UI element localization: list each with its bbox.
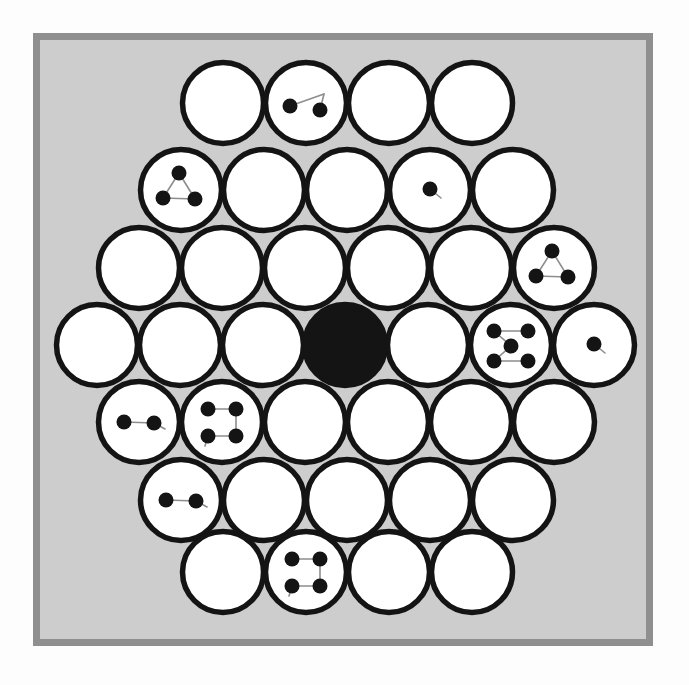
open-circle[interactable]: [266, 532, 347, 613]
board-circle-r2c5[interactable]: [473, 150, 554, 231]
open-circle[interactable]: [141, 150, 222, 231]
board-circle-r2c2[interactable]: [224, 150, 305, 231]
board-circle-r6c4[interactable]: [390, 460, 471, 541]
marker-dot: [117, 415, 132, 430]
marker-dot: [285, 579, 300, 594]
open-circle[interactable]: [349, 532, 430, 613]
board-circle-r6c2[interactable]: [224, 460, 305, 541]
board-circle-r4c4[interactable]: [305, 305, 386, 386]
marker-dot: [229, 429, 244, 444]
marker-dot: [156, 191, 171, 206]
board-circle-r3c2[interactable]: [182, 228, 263, 309]
board-circle-r3c5[interactable]: [431, 228, 512, 309]
open-circle[interactable]: [431, 228, 512, 309]
marker-dot: [283, 99, 298, 114]
marker-dot: [313, 579, 328, 594]
marker-dot: [159, 493, 174, 508]
board-circle-r5c3[interactable]: [265, 382, 346, 463]
board-circle-r1c2[interactable]: [266, 63, 347, 144]
board-circle-r2c4[interactable]: [390, 150, 471, 231]
open-circle[interactable]: [432, 532, 513, 613]
open-circle[interactable]: [265, 228, 346, 309]
marker-dot: [313, 103, 328, 118]
board-circle-r4c2[interactable]: [140, 305, 221, 386]
open-circle[interactable]: [388, 305, 469, 386]
open-circle[interactable]: [183, 63, 264, 144]
board-circle-r6c5[interactable]: [473, 460, 554, 541]
marker-dot: [147, 416, 162, 431]
open-circle[interactable]: [182, 382, 263, 463]
board-circle-r4c5[interactable]: [388, 305, 469, 386]
open-circle[interactable]: [473, 460, 554, 541]
board-circle-r1c3[interactable]: [349, 63, 430, 144]
open-circle[interactable]: [183, 532, 264, 613]
filled-circle[interactable]: [305, 305, 386, 386]
board-circle-r5c5[interactable]: [431, 382, 512, 463]
board-circle-r2c1[interactable]: [141, 150, 222, 231]
open-circle[interactable]: [349, 63, 430, 144]
marker-dot: [545, 244, 560, 259]
open-circle[interactable]: [431, 382, 512, 463]
board-circle-r3c1[interactable]: [99, 228, 180, 309]
marker-dot: [313, 552, 328, 567]
marker-dot: [285, 552, 300, 567]
marker-dot: [521, 324, 536, 339]
board-stage: [0, 0, 689, 685]
board-circle-r5c1[interactable]: [99, 382, 180, 463]
open-circle[interactable]: [140, 305, 221, 386]
marker-dot: [189, 494, 204, 509]
board-circle-r4c6[interactable]: [471, 305, 552, 386]
marker-dot: [561, 270, 576, 285]
board-circle-r6c3[interactable]: [307, 460, 388, 541]
board-circle-r7c2[interactable]: [266, 532, 347, 613]
open-circle[interactable]: [265, 382, 346, 463]
open-circle[interactable]: [432, 63, 513, 144]
marker-dot: [521, 354, 536, 369]
board-circle-r4c7[interactable]: [554, 305, 635, 386]
marker-dot: [201, 429, 216, 444]
open-circle[interactable]: [514, 382, 595, 463]
open-circle[interactable]: [57, 305, 138, 386]
board-area: [0, 0, 689, 685]
marker-dot: [504, 339, 519, 354]
marker-dot: [487, 324, 502, 339]
board-circle-r2c3[interactable]: [307, 150, 388, 231]
board-circle-r7c1[interactable]: [183, 532, 264, 613]
open-circle[interactable]: [223, 305, 304, 386]
board-circle-r1c1[interactable]: [183, 63, 264, 144]
board-circle-r3c3[interactable]: [265, 228, 346, 309]
board-circle-r1c4[interactable]: [432, 63, 513, 144]
board-circle-r7c3[interactable]: [349, 532, 430, 613]
marker-dot: [487, 354, 502, 369]
open-circle[interactable]: [224, 460, 305, 541]
marker-dot: [423, 182, 438, 197]
open-circle[interactable]: [348, 228, 429, 309]
open-circle[interactable]: [473, 150, 554, 231]
board-circle-r3c4[interactable]: [348, 228, 429, 309]
marker-dot: [188, 192, 203, 207]
open-circle[interactable]: [182, 228, 263, 309]
marker-dot: [172, 166, 187, 181]
open-circle[interactable]: [348, 382, 429, 463]
circle-packing-svg: [0, 0, 689, 685]
marker-dot: [587, 337, 602, 352]
open-circle[interactable]: [224, 150, 305, 231]
board-circle-r4c1[interactable]: [57, 305, 138, 386]
board-circle-r5c2[interactable]: [182, 382, 263, 463]
board-circle-r4c3[interactable]: [223, 305, 304, 386]
open-circle[interactable]: [99, 228, 180, 309]
marker-dot: [229, 402, 244, 417]
board-circle-r6c1[interactable]: [141, 460, 222, 541]
board-circle-r3c6[interactable]: [514, 228, 595, 309]
open-circle[interactable]: [514, 228, 595, 309]
board-circle-r5c6[interactable]: [514, 382, 595, 463]
board-circle-r5c4[interactable]: [348, 382, 429, 463]
open-circle[interactable]: [307, 150, 388, 231]
marker-dot: [201, 402, 216, 417]
open-circle[interactable]: [390, 460, 471, 541]
open-circle[interactable]: [266, 63, 347, 144]
board-circle-r7c4[interactable]: [432, 532, 513, 613]
marker-dot: [529, 269, 544, 284]
open-circle[interactable]: [307, 460, 388, 541]
